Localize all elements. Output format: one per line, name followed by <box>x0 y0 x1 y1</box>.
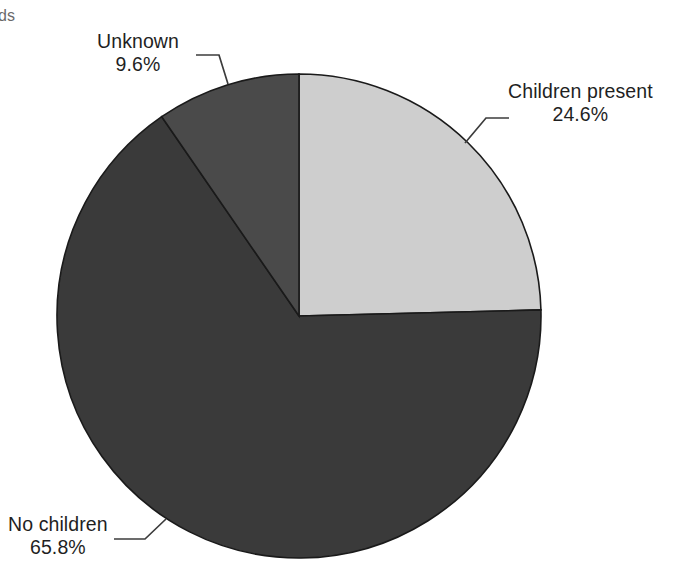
pie-label-children-present-value: 24.6% <box>508 103 653 126</box>
pie-label-no-children-value: 65.8% <box>8 536 108 559</box>
pie-chart-page: ds Children present 24.6% Unknown 9.6% N… <box>0 0 700 569</box>
pie-label-no-children-name: No children <box>8 513 108 536</box>
pie-label-no-children: No children 65.8% <box>8 513 108 559</box>
pie-label-unknown: Unknown 9.6% <box>76 30 200 76</box>
pie-label-unknown-name: Unknown <box>76 30 200 53</box>
pie-slice-children-present[interactable] <box>299 74 541 316</box>
leader-line-unknown <box>196 55 228 84</box>
pie-label-unknown-value: 9.6% <box>76 53 200 76</box>
leader-line-no-children <box>114 519 166 539</box>
pie-label-children-present: Children present 24.6% <box>508 80 653 126</box>
pie-label-children-present-name: Children present <box>508 80 653 103</box>
leader-line-children-present <box>465 118 509 143</box>
